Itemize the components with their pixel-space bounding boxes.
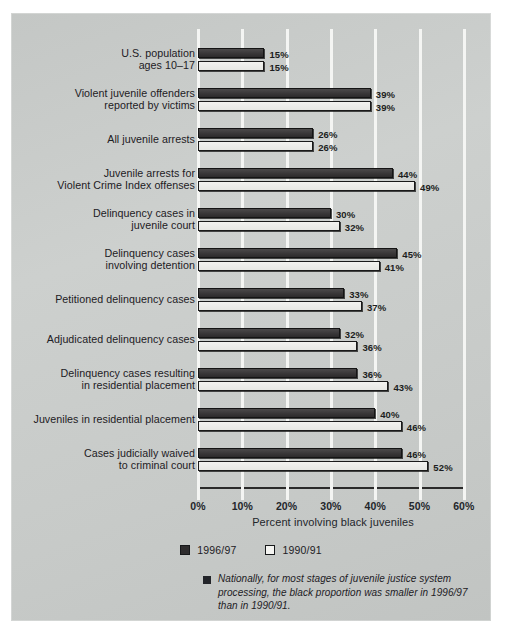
category-label: Juvenile arrests forViolent Crime Index … (0, 167, 195, 192)
category-label: Delinquency cases resultingin residentia… (0, 367, 195, 392)
bar-1996-97 (198, 168, 393, 178)
bar-1996-97 (198, 128, 313, 138)
bar-value-label: 15% (269, 49, 288, 60)
bar-1990-91 (198, 141, 313, 151)
bar-1996-97 (198, 208, 331, 218)
chart-legend: 1996/97 1990/91 (11, 543, 491, 556)
bar-1996-97 (198, 408, 375, 418)
x-axis-tick (286, 491, 289, 500)
bar-value-label: 32% (345, 222, 364, 233)
bar-value-label: 41% (385, 262, 404, 273)
category-label: Cases judicially waivedto criminal court (0, 447, 195, 472)
category-label: All juvenile arrests (0, 133, 195, 146)
footnote-bullet-icon (203, 576, 211, 584)
bar-1990-91 (198, 61, 264, 71)
bar-1990-91 (198, 181, 415, 191)
legend-swatch-dark-icon (180, 545, 190, 555)
x-axis-tick (374, 491, 377, 500)
bar-value-label: 46% (407, 422, 426, 433)
legend-item-1990-91: 1990/91 (265, 544, 321, 556)
bar-1996-97 (198, 288, 344, 298)
bar-value-label: 32% (345, 329, 364, 340)
bar-value-label: 36% (362, 342, 381, 353)
bar-value-label: 15% (269, 62, 288, 73)
bar-1990-91 (198, 381, 388, 391)
x-axis-tick-label: 40% (355, 500, 395, 512)
plot-area: Percent involving black juveniles 0%10%2… (11, 13, 491, 621)
category-label: Petitioned delinquency cases (0, 293, 195, 306)
x-axis-tick-label: 30% (311, 500, 351, 512)
gridline (463, 29, 466, 491)
bar-value-label: 52% (433, 462, 452, 473)
bar-1996-97 (198, 328, 340, 338)
bar-1996-97 (198, 448, 402, 458)
bar-value-label: 39% (376, 102, 395, 113)
bar-value-label: 30% (336, 209, 355, 220)
bar-value-label: 46% (407, 449, 426, 460)
legend-item-1996-97: 1996/97 (180, 544, 236, 556)
bar-value-label: 43% (393, 382, 412, 393)
x-axis-tick-label: 20% (267, 500, 307, 512)
bar-1990-91 (198, 341, 357, 351)
legend-swatch-light-icon (265, 545, 275, 555)
bar-1996-97 (198, 48, 264, 58)
bar-value-label: 33% (349, 289, 368, 300)
bar-value-label: 26% (318, 142, 337, 153)
x-axis-tick-label: 60% (444, 500, 484, 512)
bar-value-label: 44% (398, 169, 417, 180)
x-axis-tick-label: 0% (178, 500, 218, 512)
x-axis-tick (330, 491, 333, 500)
x-axis-tick-label: 50% (400, 500, 440, 512)
x-axis-tick (463, 491, 466, 500)
bar-1996-97 (198, 88, 371, 98)
bar-value-label: 45% (402, 249, 421, 260)
bar-1990-91 (198, 221, 340, 231)
category-label: Juveniles in residential placement (0, 413, 195, 426)
bar-1996-97 (198, 248, 397, 258)
x-axis-tick (241, 491, 244, 500)
bar-1990-91 (198, 101, 371, 111)
bar-value-label: 49% (420, 182, 439, 193)
bar-value-label: 39% (376, 89, 395, 100)
bar-value-label: 36% (362, 369, 381, 380)
category-label: U.S. populationages 10–17 (0, 47, 195, 72)
bar-value-label: 40% (380, 409, 399, 420)
x-axis-title: Percent involving black juveniles (198, 516, 468, 528)
category-label: Adjudicated delinquency cases (0, 333, 195, 346)
bar-value-label: 37% (367, 302, 386, 313)
bar-1990-91 (198, 301, 362, 311)
category-label: Violent juvenile offendersreported by vi… (0, 87, 195, 112)
bar-1990-91 (198, 261, 380, 271)
x-axis-tick (197, 491, 200, 500)
legend-label-1990-91: 1990/91 (282, 544, 321, 556)
x-axis-tick-label: 10% (222, 500, 262, 512)
category-label: Delinquency cases injuvenile court (0, 207, 195, 232)
category-label: Delinquency casesinvolving detention (0, 247, 195, 272)
legend-label-1996-97: 1996/97 (197, 544, 236, 556)
x-axis-tick (419, 491, 422, 500)
bar-1996-97 (198, 368, 357, 378)
footnote-text: Nationally, for most stages of juvenile … (218, 572, 468, 613)
bar-value-label: 26% (318, 129, 337, 140)
chart-figure: Percent involving black juveniles 0%10%2… (11, 13, 491, 621)
bar-1990-91 (198, 461, 428, 471)
bar-1990-91 (198, 421, 402, 431)
